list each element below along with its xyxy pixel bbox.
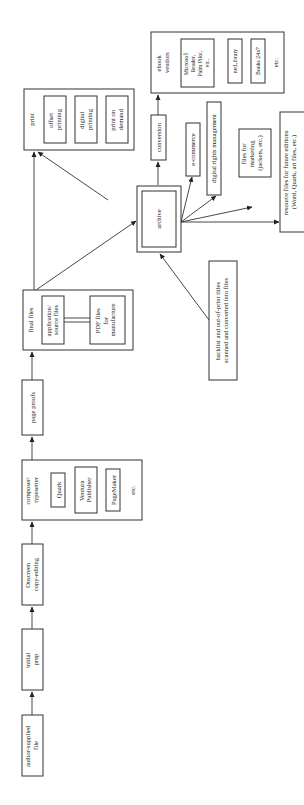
node-e-commerce: e-commerce: [186, 123, 200, 176]
node-composer-typesetter: composer/ typesetter Quark Ventura Publi…: [22, 460, 142, 520]
svg-text:archive: archive: [155, 209, 162, 228]
svg-text:final files: final files: [27, 307, 34, 333]
node-final-files: final files application/ source files PD…: [23, 290, 133, 350]
svg-text:ebook vendors: ebook vendors: [155, 52, 170, 73]
svg-text:Books 24x7: Books 24x7: [255, 47, 261, 75]
tool-pagemaker: PageMaker: [106, 469, 120, 511]
node-initial-prep: initial prep: [22, 629, 43, 690]
vendor-microsoft-reader: Microsoft Reader, Palm Pilot, etc.: [181, 39, 214, 87]
svg-text:netLibrary: netLibrary: [232, 49, 238, 74]
print-on-demand: print on demand: [106, 96, 128, 143]
svg-text:digital rights management: digital rights management: [210, 114, 217, 183]
svg-text:digital printing: digital printing: [78, 108, 93, 130]
svg-text:backlist and out-of-print titl: backlist and out-of-print titles scanned…: [214, 278, 229, 363]
svg-text:offset printing: offset printing: [47, 108, 62, 130]
node-resource-files: resource files for future editions (Word…: [280, 112, 304, 232]
node-print: print offset printing digital printing p…: [24, 89, 134, 150]
print-offset: offset printing: [44, 96, 66, 143]
svg-text:composer/ typesetter: composer/ typesetter: [24, 475, 39, 504]
svg-text:Onscreen copy-editing: Onscreen copy-editing: [24, 557, 39, 591]
svg-text:PageMaker: PageMaker: [110, 474, 117, 505]
node-page-proofs: page proofs: [22, 380, 43, 435]
tool-ventura-publisher: Ventura Publisher: [75, 467, 97, 513]
publishing-workflow-diagram: author-supplied file initial prep Onscre…: [0, 0, 304, 805]
node-ebook-vendors: ebook vendors Microsoft Reader, Palm Pil…: [151, 32, 284, 93]
node-backlist-scanned: backlist and out-of-print titles scanned…: [209, 261, 237, 380]
edge-final-archive: [36, 221, 136, 290]
svg-text:e-commerce: e-commerce: [189, 133, 196, 166]
ebook-etc: etc.: [272, 57, 279, 67]
final-source-files: application/ source files: [42, 296, 64, 344]
node-digital-rights-management: digital rights management: [207, 102, 221, 195]
svg-text:Ventura Publisher: Ventura Publisher: [78, 477, 93, 503]
node-conversion: conversion: [151, 115, 166, 160]
final-pdf-files: PDF files for manufacture: [90, 296, 125, 344]
svg-text:Quark: Quark: [55, 481, 62, 498]
vendor-netlibrary: netLibrary: [228, 39, 242, 83]
svg-text:conversion: conversion: [155, 122, 162, 152]
edge-backlist-archive: [160, 254, 209, 320]
svg-text:application/ source fi: application/ source files: [45, 304, 60, 337]
vendor-books24x7: Books 24x7: [251, 39, 265, 83]
edge-archive-print: [38, 152, 108, 200]
svg-text:resource files for future edit: resource files for future editions (Word…: [282, 129, 298, 215]
node-files-for-marketing: files for marketing (jackets, etc.): [239, 129, 271, 177]
node-onscreen-copy-editing: Onscreen copy-editing: [22, 544, 43, 605]
svg-text:page proofs: page proofs: [29, 392, 36, 423]
composer-etc: etc.: [129, 485, 136, 495]
tool-quark: Quark: [51, 473, 65, 507]
svg-text:print: print: [28, 113, 35, 126]
svg-text:print on demand: print on demand: [109, 108, 124, 130]
print-digital: digital printing: [75, 96, 97, 143]
node-archive: archive: [137, 186, 181, 252]
node-author-supplied-file: author-supplied file: [22, 715, 43, 776]
